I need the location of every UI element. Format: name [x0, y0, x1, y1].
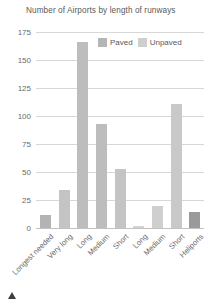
- legend-label: Paved: [110, 38, 133, 47]
- bar: [171, 104, 182, 228]
- chart-title: Number of Airports by length of runways: [26, 6, 176, 15]
- y-axis-tick-labels: 0255075100125150175: [0, 32, 31, 228]
- y-tick-label: 75: [22, 140, 31, 149]
- legend-label: Unpaved: [150, 38, 182, 47]
- y-tick-label: 0: [27, 224, 31, 233]
- y-tick-label: 175: [18, 28, 31, 37]
- bar: [152, 206, 163, 228]
- legend-swatch-icon: [138, 38, 147, 47]
- x-axis-tick-labels: Longest neededVery longLongMediumShortLo…: [36, 230, 204, 290]
- legend-item[interactable]: Unpaved: [138, 38, 182, 47]
- y-tick-label: 25: [22, 196, 31, 205]
- chart-container: Number of Airports by length of runways …: [0, 0, 210, 306]
- legend-item[interactable]: Paved: [98, 38, 133, 47]
- y-tick-label: 100: [18, 112, 31, 121]
- x-tick-label: Short: [111, 232, 130, 251]
- y-tick-label: 50: [22, 168, 31, 177]
- bar: [115, 169, 126, 228]
- plot-area: [36, 32, 204, 228]
- y-tick-label: 125: [18, 84, 31, 93]
- bottom-arrow-marker: [8, 292, 16, 299]
- x-axis-line: [36, 228, 204, 229]
- bar: [96, 124, 107, 228]
- bar: [59, 190, 70, 228]
- bar: [189, 212, 200, 228]
- y-tick-label: 150: [18, 56, 31, 65]
- legend-swatch-icon: [98, 38, 107, 47]
- bar: [77, 42, 88, 228]
- bar: [40, 215, 51, 228]
- bar-group: [36, 32, 204, 228]
- chart-legend: PavedUnpaved: [96, 37, 184, 48]
